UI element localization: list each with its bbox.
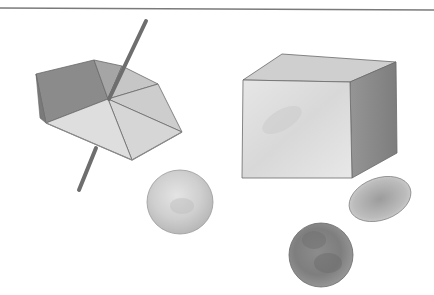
ellipsoid [343,168,418,229]
light-sphere [147,170,213,234]
illustration: Watercolor illustration of geometric sol… [0,0,434,295]
spinning-top [36,21,182,190]
dark-sphere [289,223,353,287]
illustration-svg [0,0,434,295]
top-rule [0,8,434,10]
cube [242,54,397,178]
